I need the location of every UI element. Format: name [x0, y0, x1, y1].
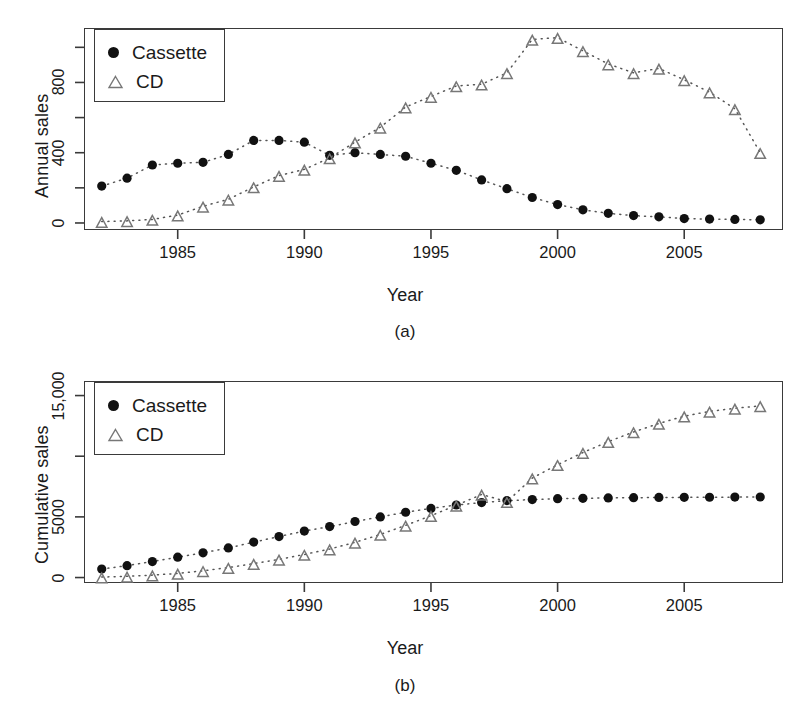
data-point-cassette — [756, 215, 765, 224]
legend-entry-cd-b: CD — [108, 425, 163, 444]
data-point-cd — [552, 461, 562, 471]
data-point-cd — [578, 47, 588, 57]
data-point-cd — [350, 538, 360, 548]
data-point-cassette — [148, 557, 157, 566]
data-point-cassette — [148, 160, 157, 169]
data-point-cd — [299, 165, 309, 175]
y-tick-label: 15,000 — [50, 371, 68, 420]
data-point-cassette — [730, 215, 739, 224]
x-tick-label: 1985 — [159, 243, 196, 262]
x-tick-label: 2000 — [539, 243, 576, 262]
data-point-cd — [679, 76, 689, 86]
data-point-cd — [248, 183, 258, 193]
legend-entry-cassette-a: Cassette — [108, 43, 207, 62]
data-point-cd — [502, 69, 512, 79]
filled-circle-icon — [108, 47, 119, 58]
data-point-cd — [426, 512, 436, 522]
data-point-cassette — [553, 494, 562, 503]
data-point-cassette — [756, 492, 765, 501]
data-point-cassette — [224, 543, 233, 552]
legend-label-cassette: Cassette — [132, 43, 207, 62]
legend-entry-cd-a: CD — [108, 72, 163, 91]
data-point-cd — [628, 428, 638, 438]
data-point-cassette — [173, 553, 182, 562]
data-point-cd — [451, 82, 461, 92]
data-point-cassette — [198, 158, 207, 167]
data-point-cassette — [274, 532, 283, 541]
panel-b-cumulative-sales: Cumulative sales Cassette CD Year (b) 19… — [0, 352, 810, 715]
legend-a: Cassette CD — [94, 29, 225, 102]
data-point-cd — [324, 545, 334, 555]
data-point-cd — [299, 550, 309, 560]
x-tick-label: 1985 — [159, 596, 196, 615]
x-tick-label: 2005 — [666, 243, 703, 262]
y-tick-label: 800 — [50, 69, 68, 96]
data-point-cassette — [401, 152, 410, 161]
filled-circle-icon — [108, 400, 119, 411]
data-point-cassette — [274, 136, 283, 145]
data-point-cassette — [528, 193, 537, 202]
data-point-cassette — [452, 166, 461, 175]
data-point-cassette — [350, 517, 359, 526]
y-tick-label: 0 — [50, 219, 68, 228]
data-point-cd — [147, 571, 157, 581]
data-point-cassette — [604, 493, 613, 502]
data-point-cd — [527, 35, 537, 45]
data-point-cassette — [705, 493, 714, 502]
legend-label-cd: CD — [136, 72, 163, 91]
data-point-cassette — [97, 181, 106, 190]
panel-a-annual-sales: Annual sales Cassette CD Year (a) 198519… — [0, 0, 810, 355]
data-point-cd — [147, 215, 157, 225]
data-point-cassette — [477, 175, 486, 184]
data-point-cassette — [553, 200, 562, 209]
data-point-cassette — [300, 526, 309, 535]
x-tick-label: 2000 — [539, 596, 576, 615]
data-point-cd — [97, 573, 107, 583]
data-point-cassette — [680, 493, 689, 502]
legend-entry-cassette-b: Cassette — [108, 396, 207, 415]
data-point-cassette — [122, 561, 131, 570]
plot-area-b: Cassette CD — [84, 381, 783, 583]
x-tick-label: 1995 — [413, 243, 450, 262]
data-point-cassette — [173, 159, 182, 168]
data-point-cassette — [249, 136, 258, 145]
data-point-cassette — [578, 494, 587, 503]
figure-sales-comparison: Annual sales Cassette CD Year (a) 198519… — [0, 0, 810, 715]
data-point-cassette — [376, 512, 385, 521]
data-point-cd — [172, 569, 182, 579]
x-tick-label: 2005 — [666, 596, 703, 615]
legend-label-cassette: Cassette — [132, 396, 207, 415]
y-tick-label: 0 — [50, 573, 68, 582]
legend-b: Cassette CD — [94, 382, 225, 455]
y-axis-label-b: Cumulative sales — [32, 425, 53, 564]
data-point-cassette — [680, 214, 689, 223]
open-triangle-icon — [108, 75, 123, 89]
legend-label-cd: CD — [136, 425, 163, 444]
data-point-cd — [97, 218, 107, 228]
data-point-cd — [755, 149, 765, 159]
open-triangle-icon — [108, 428, 123, 442]
data-point-cd — [198, 567, 208, 577]
panel-tag-a: (a) — [0, 322, 810, 342]
data-point-cassette — [654, 493, 663, 502]
data-point-cassette — [198, 548, 207, 557]
data-point-cassette — [325, 522, 334, 531]
data-point-cd — [172, 211, 182, 221]
x-tick-label: 1990 — [286, 596, 323, 615]
data-point-cassette — [224, 150, 233, 159]
data-point-cd — [274, 172, 284, 182]
data-point-cassette — [654, 212, 663, 221]
x-axis-label-a: Year — [0, 285, 810, 306]
data-point-cd — [400, 521, 410, 531]
data-point-cassette — [730, 493, 739, 502]
data-point-cassette — [629, 211, 638, 220]
plot-area-a: Cassette CD — [84, 28, 783, 230]
data-point-cd — [730, 105, 740, 115]
x-tick-label: 1990 — [286, 243, 323, 262]
data-point-cassette — [528, 495, 537, 504]
x-axis-label-b: Year — [0, 638, 810, 659]
data-point-cassette — [705, 215, 714, 224]
data-point-cd — [654, 64, 664, 74]
data-point-cassette — [249, 538, 258, 547]
data-point-cassette — [122, 174, 131, 183]
